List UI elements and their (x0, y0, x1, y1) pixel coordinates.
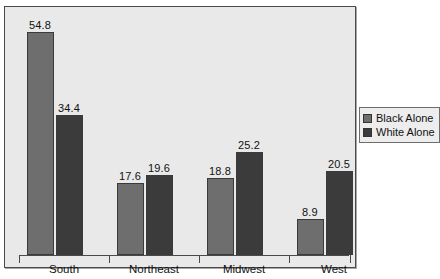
axis-tick (289, 255, 290, 263)
bar-black-alone-west[interactable] (297, 219, 324, 255)
category-axis-line (19, 255, 349, 256)
legend-item-label: White Alone (376, 126, 435, 138)
bar-value-label: 20.5 (316, 158, 362, 170)
bar-group-bars: 54.8 34.4 (19, 19, 109, 255)
bar-white-alone-northeast[interactable] (146, 175, 173, 255)
bar-black-alone-northeast[interactable] (117, 183, 144, 255)
legend-item-label: Black Alone (376, 112, 433, 124)
bar-group-bars: 18.8 25.2 (199, 19, 289, 255)
bar-group-south: 54.8 34.4 (19, 19, 109, 255)
axis-tick (109, 255, 110, 263)
axis-tick (350, 255, 351, 263)
bar-value-label: 34.4 (46, 102, 92, 114)
bar-value-label: 19.6 (136, 162, 182, 174)
bar-white-alone-south[interactable] (56, 115, 83, 255)
chart-legend: Black Alone White Alone (359, 107, 440, 143)
category-label-northeast: Northeast (109, 263, 199, 275)
bar-value-label: 18.8 (197, 165, 243, 177)
legend-swatch-icon (363, 114, 372, 123)
legend-item-white-alone[interactable]: White Alone (363, 125, 435, 139)
category-label-midwest: Midwest (199, 263, 289, 275)
bar-black-alone-south[interactable] (27, 32, 54, 255)
bar-value-label: 8.9 (287, 206, 333, 218)
bar-group-northeast: 17.6 19.6 (109, 19, 199, 255)
bar-group-midwest: 18.8 25.2 (199, 19, 289, 255)
axis-tick (199, 255, 200, 263)
bar-black-alone-midwest[interactable] (207, 178, 234, 255)
bar-value-label: 25.2 (226, 139, 272, 151)
legend-swatch-icon (363, 128, 372, 137)
category-label-south: South (19, 263, 109, 275)
axis-tick (19, 255, 20, 263)
bar-group-bars: 17.6 19.6 (109, 19, 199, 255)
bar-value-label: 54.8 (17, 19, 63, 31)
plot-frame: 54.8 34.4 17.6 19.6 18.8 2 (4, 6, 356, 268)
legend-item-black-alone[interactable]: Black Alone (363, 111, 435, 125)
plot-area: 54.8 34.4 17.6 19.6 18.8 2 (19, 19, 349, 255)
category-label-west: West (289, 263, 379, 275)
